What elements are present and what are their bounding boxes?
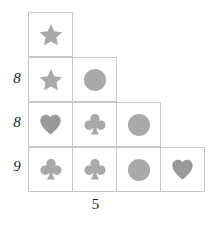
row-total-label: 8 [8,56,26,101]
row-total-label: 9 [8,144,26,189]
row-total-label: 8 [8,100,26,145]
staircase-grid [28,12,204,192]
shape-grid-puzzle: 889 5 [0,0,216,230]
club-icon [82,112,108,138]
heart-icon [38,112,63,137]
grid-cell[interactable] [72,57,117,102]
grid-row [28,57,204,102]
circle-icon [82,67,108,93]
star-icon [38,67,64,93]
grid-cell[interactable] [28,102,73,147]
grid-cell[interactable] [28,12,73,57]
grid-cell[interactable] [72,147,117,192]
grid-cell[interactable] [28,147,73,192]
grid-cell[interactable] [72,102,117,147]
grid-cell[interactable] [116,102,161,147]
column-total-label: 5 [28,196,163,213]
star-icon [38,22,64,48]
club-icon [38,157,64,183]
circle-icon [126,157,152,183]
grid-cell[interactable] [28,57,73,102]
circle-icon [126,112,152,138]
grid-cell[interactable] [116,147,161,192]
grid-row [28,147,204,192]
heart-icon [170,157,195,182]
grid-row [28,12,204,57]
grid-row [28,102,204,147]
grid-cell[interactable] [160,147,205,192]
club-icon [82,157,108,183]
